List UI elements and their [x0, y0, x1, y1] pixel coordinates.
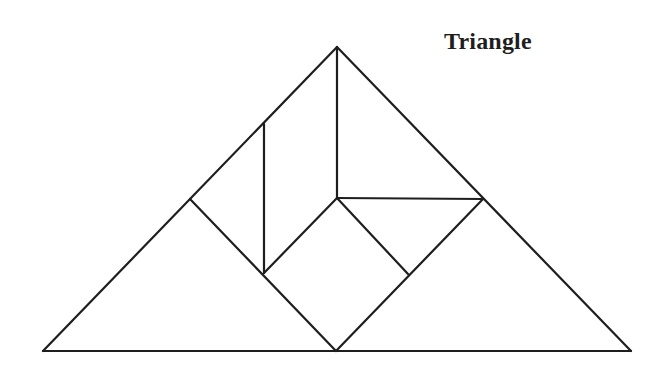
square-upper-right [337, 198, 408, 274]
horizontal-shelf [337, 198, 483, 199]
tangram-triangle-diagram [0, 0, 668, 378]
inner-diagonal-up [264, 198, 337, 273]
tangram-edges [43, 47, 631, 351]
